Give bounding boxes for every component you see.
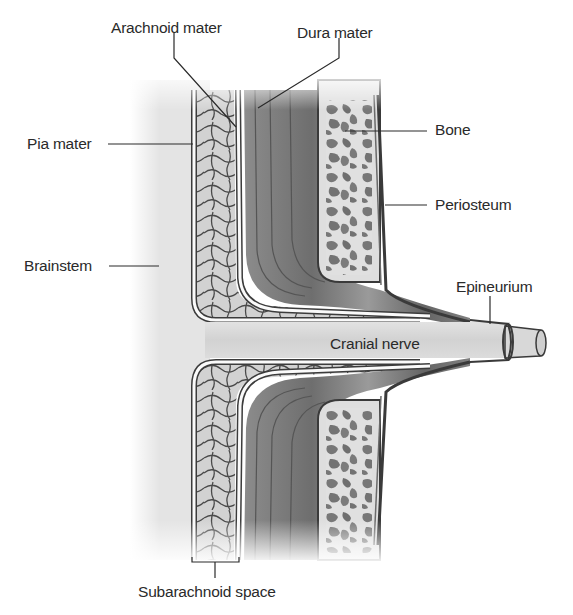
label-brainstem: Brainstem	[24, 258, 92, 274]
label-arachnoid-mater: Arachnoid mater	[111, 20, 222, 36]
label-subarachnoid-space: Subarachnoid space	[138, 584, 276, 600]
label-periosteum: Periosteum	[435, 197, 511, 213]
periosteum-lower	[378, 362, 470, 545]
meninges-diagram: Arachnoid mater Dura mater Pia mater Bon…	[0, 0, 573, 615]
label-cranial-nerve: Cranial nerve	[330, 336, 420, 352]
label-epineurium: Epineurium	[456, 279, 532, 295]
label-pia-mater: Pia mater	[27, 136, 92, 152]
label-bone: Bone	[435, 122, 470, 138]
label-dura-mater: Dura mater	[297, 25, 373, 41]
diagram-illustration	[0, 0, 573, 615]
